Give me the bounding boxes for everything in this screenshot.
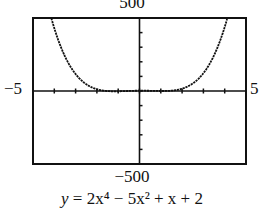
equation-y: y <box>61 189 69 208</box>
x-min-label: −5 <box>4 80 22 97</box>
y-max-label: 500 <box>0 0 264 11</box>
x-max-label: 5 <box>250 80 259 97</box>
y-min-label: −500 <box>0 168 264 185</box>
equation-body: = 2x⁴ − 5x² + x + 2 <box>69 189 203 208</box>
equation-caption: y = 2x⁴ − 5x² + x + 2 <box>0 190 264 207</box>
